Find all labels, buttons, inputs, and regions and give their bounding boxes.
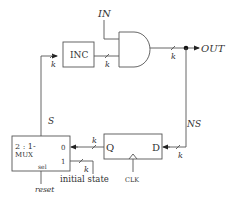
inc-to-and-wire <box>94 54 119 58</box>
s-label: S <box>48 116 54 126</box>
and-to-out-wire <box>150 46 199 50</box>
ns-wire <box>163 48 186 149</box>
register-q-label: Q <box>106 142 114 153</box>
mux-sel-label: sel <box>38 163 47 170</box>
k-label-ns: k <box>178 151 183 160</box>
mux-label-line1: 2 : 1- <box>15 142 36 151</box>
initial-state-label: initial state <box>60 174 109 184</box>
mux-label-line2: MUX <box>15 151 33 159</box>
reset-label: reset <box>35 185 55 194</box>
register-d-label: D <box>152 142 160 153</box>
clk-label: CLK <box>125 176 139 184</box>
k-label-inc-and: k <box>105 60 110 69</box>
out-label: OUT <box>201 43 226 54</box>
k-label-initial: k <box>84 165 89 174</box>
and-gate <box>119 32 150 67</box>
circuit-diagram: IN INC k k OUT NS k Q D CLK k 2 : 1- MUX… <box>0 0 241 203</box>
k-label-and-out: k <box>171 52 176 61</box>
k-label-s-inc: k <box>51 60 56 69</box>
in-wire <box>104 20 119 39</box>
k-label-q-mux: k <box>92 136 97 145</box>
initial-state-wire <box>70 159 93 174</box>
mux-input0-label: 0 <box>61 144 65 152</box>
q-to-mux-wire <box>71 145 104 149</box>
in-label: IN <box>97 8 112 19</box>
ns-label: NS <box>186 119 201 129</box>
inc-label: INC <box>70 50 88 60</box>
mux-input1-label: 1 <box>61 158 65 166</box>
